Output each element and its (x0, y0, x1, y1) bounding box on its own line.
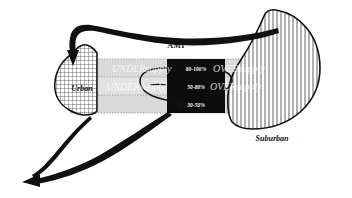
diagram-canvas: AMI UNDERsupply UNDERsupply OVERsupply O… (0, 0, 352, 198)
arrow-ami-outflow-head (22, 174, 40, 187)
ami-boxes (167, 59, 225, 113)
arrow-ami-outflow-body (36, 112, 172, 184)
region-suburban-shape (228, 10, 320, 129)
ami-box-bottom (167, 95, 225, 113)
arrow-into-band-middle (150, 84, 166, 85)
diagram-graphics (0, 0, 352, 198)
